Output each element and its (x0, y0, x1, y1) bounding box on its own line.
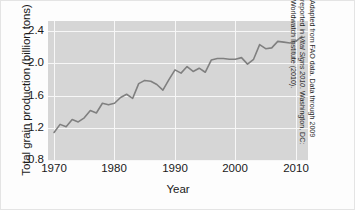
x-tick-2000: 2000 (215, 163, 255, 175)
grain-production-series (48, 21, 308, 161)
source-note-line-2-post: . Washington, DC: (298, 87, 306, 144)
x-tick-1990: 1990 (155, 163, 195, 175)
plot-area (48, 21, 308, 161)
y-tick-2-0: 2.0 (18, 57, 44, 69)
source-note-line-3: Worldwatch Institute (2010). (287, 0, 297, 209)
y-axis-ticks: 2.4 2.0 1.6 1.2 0.8 (14, 0, 44, 209)
source-note-line-2-pre: reported in (298, 0, 306, 36)
y-tick-1-6: 1.6 (18, 90, 44, 102)
y-tick-1-2: 1.2 (18, 122, 44, 134)
source-note-line-1: Adapted from FAO data. Data through 2009 (306, 0, 316, 209)
source-note-line-2: reported in Vital Signs 2010. Washington… (297, 0, 307, 209)
x-tick-1970: 1970 (34, 163, 74, 175)
source-note-publication: Vital Signs 2010 (298, 36, 306, 87)
x-tick-1980: 1980 (94, 163, 134, 175)
x-axis-label: Year (48, 183, 308, 195)
source-note: Adapted from FAO data. Data through 2009… (282, 0, 318, 209)
y-tick-2-4: 2.4 (18, 25, 44, 37)
